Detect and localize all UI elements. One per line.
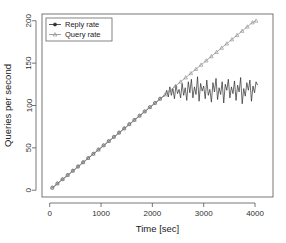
- chart-legend: Reply rateQuery rate: [46, 18, 112, 41]
- x-tick-label: 4000: [246, 209, 264, 218]
- chart-page: 01000200030004000 050100150200 Time [sec…: [0, 0, 286, 243]
- legend-label-1: Query rate: [65, 30, 100, 39]
- y-tick-label: 100: [25, 98, 34, 112]
- y-axis-title: Queries per second: [2, 64, 13, 147]
- y-tick-label: 150: [25, 56, 34, 70]
- queries-per-second-chart: 01000200030004000 050100150200 Time [sec…: [0, 0, 286, 243]
- x-axis-title: Time [sec]: [136, 223, 179, 234]
- x-tick-label: 3000: [195, 209, 213, 218]
- chart-background: [0, 0, 286, 243]
- x-tick-label: 2000: [143, 209, 161, 218]
- y-tick-label: 0: [25, 187, 34, 192]
- y-tick-label: 50: [25, 143, 34, 152]
- x-tick-label: 0: [47, 209, 52, 218]
- y-tick-label: 200: [25, 14, 34, 28]
- x-tick-label: 1000: [92, 209, 110, 218]
- legend-label-0: Reply rate: [65, 20, 99, 29]
- legend-marker-circle: [53, 23, 56, 26]
